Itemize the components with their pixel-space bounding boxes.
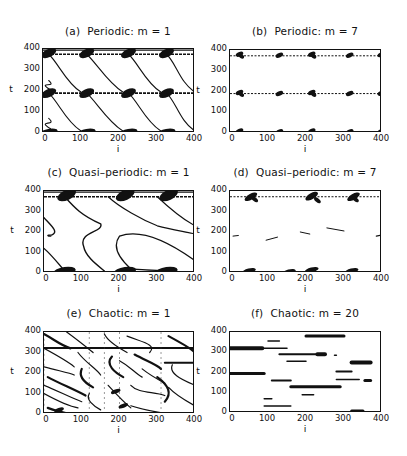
x-tick-label: 200 <box>292 274 318 283</box>
x-tick-label: 100 <box>254 274 280 283</box>
x-tick-label: 100 <box>254 134 280 143</box>
x-axis-label: i <box>113 143 123 154</box>
y-tick-label: 400 <box>203 326 227 335</box>
x-tick-label: 300 <box>143 415 169 424</box>
y-tick-label: 300 <box>16 64 40 73</box>
x-tick-label: 200 <box>292 134 318 143</box>
y-tick-label: 200 <box>203 226 227 235</box>
x-tick-label: 300 <box>143 134 169 143</box>
y-tick-label: 100 <box>203 387 227 396</box>
panel-title: (d) Quasi–periodic: m = 7 <box>229 166 381 178</box>
x-tick-label: 300 <box>330 134 356 143</box>
y-axis-label: t <box>7 366 17 376</box>
space-time-pattern <box>44 332 194 413</box>
y-tick-label: 200 <box>16 85 40 94</box>
y-tick-label: 300 <box>17 347 41 356</box>
y-tick-label: 400 <box>16 43 40 52</box>
x-tick-label: 0 <box>33 415 59 424</box>
x-tick-label: 100 <box>254 414 280 423</box>
y-tick-label: 200 <box>203 367 227 376</box>
y-tick-label: 100 <box>16 106 40 115</box>
x-tick-label: 0 <box>33 274 59 283</box>
space-time-pattern <box>43 49 194 132</box>
y-tick-label: 200 <box>203 86 227 95</box>
x-tick-label: 200 <box>105 134 131 143</box>
y-tick-label: 100 <box>17 388 41 397</box>
panel-title: (e) Chaotic: m = 1 <box>43 307 194 319</box>
plot-area <box>229 49 381 132</box>
y-axis-label: t <box>6 84 16 94</box>
x-tick-label: 400 <box>368 274 394 283</box>
plot-area <box>229 331 381 412</box>
panel-title: (a) Periodic: m = 1 <box>42 25 194 37</box>
y-axis-label: t <box>193 85 203 95</box>
x-tick-label: 300 <box>143 274 169 283</box>
x-tick-label: 400 <box>368 414 394 423</box>
x-tick-label: 100 <box>68 274 94 283</box>
x-axis-label: i <box>114 283 124 294</box>
y-tick-label: 300 <box>17 206 41 215</box>
x-tick-label: 0 <box>219 134 245 143</box>
y-tick-label: 400 <box>17 326 41 335</box>
y-tick-label: 300 <box>203 206 227 215</box>
y-tick-label: 400 <box>17 185 41 194</box>
x-axis-label: i <box>300 143 310 154</box>
x-tick-label: 0 <box>219 414 245 423</box>
x-tick-label: 0 <box>219 274 245 283</box>
x-tick-label: 400 <box>181 415 207 424</box>
x-tick-label: 200 <box>106 274 132 283</box>
x-tick-label: 0 <box>32 134 58 143</box>
x-tick-label: 200 <box>292 414 318 423</box>
x-tick-label: 300 <box>330 274 356 283</box>
plot-area <box>42 48 194 132</box>
x-axis-label: i <box>300 283 310 294</box>
space-time-pattern <box>230 332 381 412</box>
y-tick-label: 100 <box>203 247 227 256</box>
y-tick-label: 300 <box>203 346 227 355</box>
plot-area <box>229 190 381 272</box>
space-time-pattern <box>44 191 194 272</box>
y-tick-label: 200 <box>17 367 41 376</box>
panel-title: (c) Quasi–periodic: m = 1 <box>43 166 194 178</box>
y-tick-label: 300 <box>203 65 227 74</box>
x-axis-label: i <box>114 424 124 435</box>
panel-title: (f) Chaotic: m = 20 <box>229 307 381 319</box>
y-tick-label: 400 <box>203 185 227 194</box>
y-axis-label: t <box>193 225 203 235</box>
panel-title: (b) Periodic: m = 7 <box>229 25 381 37</box>
y-axis-label: t <box>7 225 17 235</box>
plot-area <box>43 331 194 413</box>
x-tick-label: 400 <box>368 134 394 143</box>
space-time-pattern <box>230 50 381 132</box>
x-tick-label: 200 <box>106 415 132 424</box>
y-axis-label: t <box>193 366 203 376</box>
y-tick-label: 100 <box>203 106 227 115</box>
y-tick-label: 400 <box>203 44 227 53</box>
x-tick-label: 100 <box>68 415 94 424</box>
x-tick-label: 300 <box>330 414 356 423</box>
y-tick-label: 100 <box>17 247 41 256</box>
plot-area <box>43 190 194 272</box>
x-axis-label: i <box>300 423 310 434</box>
space-time-pattern <box>230 191 381 272</box>
x-tick-label: 100 <box>67 134 93 143</box>
y-tick-label: 200 <box>17 226 41 235</box>
